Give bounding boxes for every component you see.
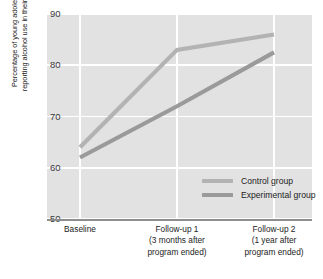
x-tick-label: Baseline — [64, 224, 96, 235]
x-tick-label-line: program ended) — [244, 247, 303, 258]
series-line-control-group — [80, 35, 274, 148]
legend-item[interactable]: Control group — [202, 174, 316, 188]
x-tick-label-line: (1 year after — [244, 235, 303, 246]
legend-swatch — [202, 193, 233, 197]
line-chart-figure: Percentage of young adolescents reportin… — [0, 0, 323, 279]
legend-label: Control group — [241, 176, 293, 186]
x-tick-label-line: Baseline — [64, 224, 96, 235]
series-line-experimental-group — [80, 52, 274, 157]
x-tick-label: Follow-up 2(1 year afterprogram ended) — [244, 224, 303, 258]
legend-label: Experimental group — [241, 190, 316, 200]
x-tick-labels: BaselineFollow-up 1(3 months afterprogra… — [47, 224, 312, 276]
legend-item[interactable]: Experimental group — [202, 188, 316, 202]
chart-legend: Control groupExperimental group — [202, 174, 316, 202]
x-tick-label-line: Follow-up 1 — [147, 224, 206, 235]
plot-area: 5060708090 Control groupExperimental gro… — [47, 14, 312, 219]
x-axis-line — [47, 219, 312, 221]
y-axis-title-line-1: Percentage of young adolescents — [10, 0, 20, 87]
y-axis-title-line-2: reporting alcohol use in their lifetime — [20, 0, 30, 91]
x-tick-label-line: Follow-up 2 — [244, 224, 303, 235]
x-tick-label-line: (3 months after — [147, 235, 206, 246]
y-axis-title: Percentage of young adolescents reportin… — [5, 0, 35, 139]
x-tick-label-line: program ended) — [147, 247, 206, 258]
x-tick-label: Follow-up 1(3 months afterprogram ended) — [147, 224, 206, 258]
legend-swatch — [202, 179, 233, 183]
